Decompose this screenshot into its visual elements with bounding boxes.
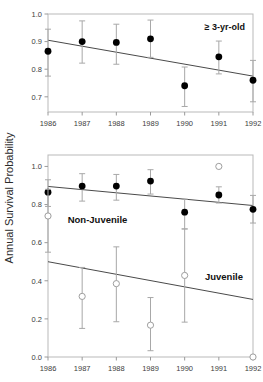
x-tick-label: 1988 [108, 119, 125, 128]
panel-bottom: 0.00.20.40.60.81.01986198719881989199019… [32, 155, 262, 373]
x-tick-label: 1987 [74, 364, 91, 373]
figure-container: 0.70.80.91.01986198719881989199019911992… [0, 0, 263, 382]
survival-probability-figure: 0.70.80.91.01986198719881989199019911992… [0, 0, 263, 382]
data-point-juvenile [79, 293, 85, 299]
data-point-3-yr-old [215, 53, 222, 60]
data-point-non-juvenile [181, 209, 188, 216]
data-point-3-yr-old [113, 39, 120, 46]
y-tick-label: 1.0 [32, 162, 42, 171]
x-tick-label: 1989 [142, 119, 159, 128]
x-tick-label: 1986 [40, 364, 57, 373]
data-point-3-yr-old [250, 77, 257, 84]
panel-annotation: ≥ 3-yr-old [205, 22, 245, 32]
data-point-juvenile [147, 322, 153, 328]
data-point-3-yr-old [181, 82, 188, 89]
y-tick-label: 0.8 [32, 65, 42, 74]
x-tick-label: 1991 [210, 119, 227, 128]
y-tick-label: 0.2 [32, 315, 42, 324]
y-axis-title: Annual Survival Probability [3, 132, 15, 263]
data-point-non-juvenile [113, 183, 120, 190]
series-label-juvenile: Juvenile [205, 271, 243, 282]
data-point-juvenile [45, 213, 51, 219]
series-label-non-juvenile: Non-Juvenile [68, 214, 128, 225]
x-tick-label: 1990 [176, 364, 193, 373]
x-tick-label: 1986 [40, 119, 57, 128]
y-tick-label: 0.0 [32, 353, 42, 362]
data-point-non-juvenile [250, 206, 257, 213]
data-point-juvenile [113, 281, 119, 287]
data-point-juvenile [216, 163, 222, 169]
data-point-non-juvenile [79, 183, 86, 190]
x-tick-label: 1990 [176, 119, 193, 128]
x-tick-label: 1991 [210, 364, 227, 373]
data-point-juvenile [182, 272, 188, 278]
panel-top: 0.70.80.91.01986198719881989199019911992… [32, 10, 262, 128]
data-point-juvenile [250, 354, 256, 360]
x-tick-label: 1992 [245, 119, 262, 128]
y-tick-label: 0.7 [32, 93, 42, 102]
x-tick-label: 1992 [245, 364, 262, 373]
data-point-non-juvenile [215, 192, 222, 199]
x-tick-label: 1988 [108, 364, 125, 373]
y-tick-label: 1.0 [32, 10, 42, 19]
y-tick-label: 0.6 [32, 238, 42, 247]
data-point-3-yr-old [147, 35, 154, 42]
x-tick-label: 1989 [142, 364, 159, 373]
y-tick-label: 0.4 [32, 277, 42, 286]
data-point-3-yr-old [45, 48, 52, 55]
y-tick-label: 0.8 [32, 200, 42, 209]
x-tick-label: 1987 [74, 119, 91, 128]
data-point-3-yr-old [79, 38, 86, 45]
data-point-non-juvenile [147, 178, 154, 185]
y-tick-label: 0.9 [32, 37, 42, 46]
